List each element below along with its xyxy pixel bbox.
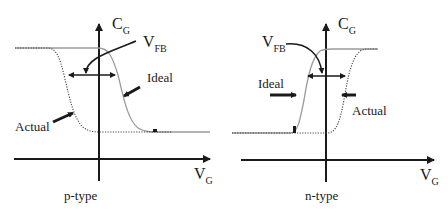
n-type-vfb-pointer [286, 44, 322, 73]
n-type-x-axis-label: VG [420, 167, 439, 183]
p-type-x-axis-label: VG [194, 166, 213, 182]
p-type-caption: p-type [64, 189, 97, 202]
p-type-ideal-label: Ideal [147, 71, 173, 84]
n-type-y-axis-label: CG [338, 16, 356, 32]
p-type-ideal-arrow [124, 87, 140, 96]
p-type-y-axis-label: CG [112, 16, 130, 32]
n-type-vfb-label: VFB [262, 34, 286, 50]
n-type-ideal-curve [232, 49, 378, 133]
p-type-ideal-marker [153, 129, 157, 132]
p-type-actual-arrow [53, 113, 73, 122]
n-type-actual-label: Actual [352, 104, 387, 117]
n-type-ideal-label: Ideal [258, 77, 284, 90]
p-type-panel [14, 24, 210, 181]
n-type-ideal-marker [293, 126, 296, 133]
p-type-vfb-label: VFB [143, 34, 167, 50]
n-type-caption: n-type [305, 189, 338, 202]
p-type-actual-label: Actual [15, 120, 50, 133]
